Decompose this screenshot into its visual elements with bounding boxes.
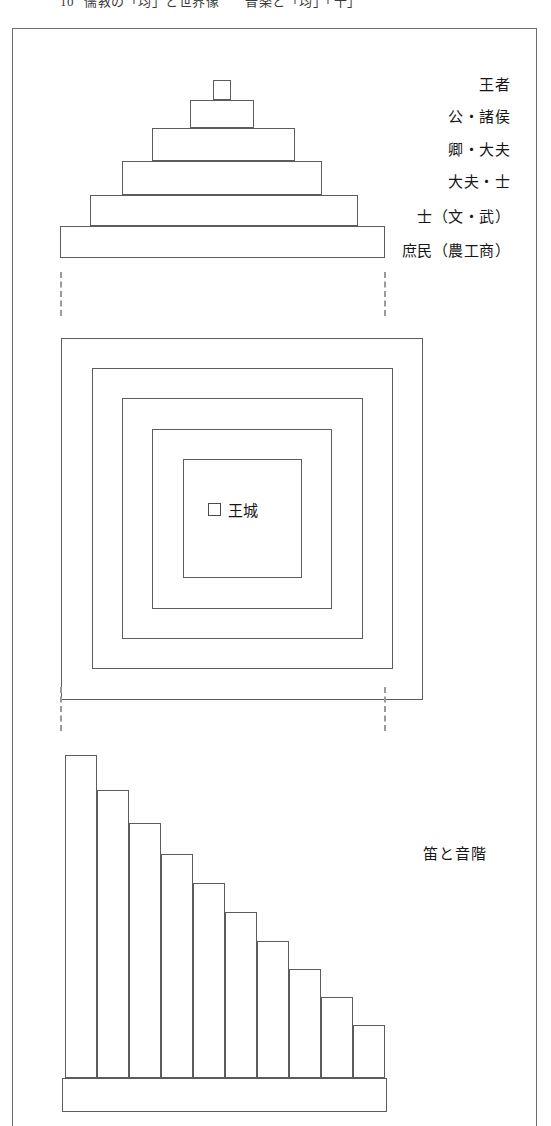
running-head-subtitle: 音楽と「均」「十」: [245, 0, 361, 8]
pyramid-label-1: 王者: [479, 78, 510, 93]
pyramid-label-5: 士（文・武）: [417, 210, 510, 225]
small-square-icon: [208, 503, 221, 516]
pyramid-tier-1: [213, 80, 231, 100]
pyramid-label-4: 大夫・士: [448, 175, 510, 190]
pyramid-tier-6: [60, 226, 385, 258]
pyramid-tier-3: [152, 128, 295, 161]
pitch-bar-7: [257, 941, 289, 1078]
pyramid-label-2: 公・諸侯: [448, 110, 510, 125]
royal-capital-label: 王城: [208, 499, 258, 520]
royal-capital-text: 王城: [228, 499, 258, 520]
running-head-title: 儒教の「均」と世界像: [84, 0, 219, 8]
dashed-rule-right: [384, 272, 386, 316]
pitch-bar-9: [321, 997, 353, 1078]
dashed-rule-left: [60, 687, 62, 731]
pitch-bar-2: [97, 790, 129, 1078]
pitch-bar-1: [65, 755, 97, 1078]
pyramid-tier-2: [190, 100, 254, 128]
flute-scale-label: 笛と音階: [423, 842, 487, 863]
figure-page: 10儒教の「均」と世界像音楽と「均」「十」 王者公・諸侯卿・大夫大夫・士士（文・…: [0, 0, 551, 1126]
running-head-number: 10: [60, 0, 74, 8]
pitch-bar-10: [353, 1025, 385, 1078]
pitch-ladder-base: [62, 1078, 387, 1112]
pyramid-tier-4: [122, 161, 322, 195]
running-head: 10儒教の「均」と世界像音楽と「均」「十」: [0, 0, 551, 8]
pitch-bar-4: [161, 854, 193, 1078]
pitch-bar-6: [225, 912, 257, 1078]
pyramid-label-3: 卿・大夫: [448, 143, 510, 158]
pitch-bar-5: [193, 883, 225, 1078]
pitch-bar-8: [289, 969, 321, 1078]
dashed-rule-left: [60, 272, 62, 316]
pyramid-tier-5: [90, 195, 358, 226]
dashed-rule-right: [384, 687, 386, 731]
pyramid-label-6: 庶民（農工商）: [402, 244, 511, 259]
pitch-bar-3: [129, 823, 161, 1078]
